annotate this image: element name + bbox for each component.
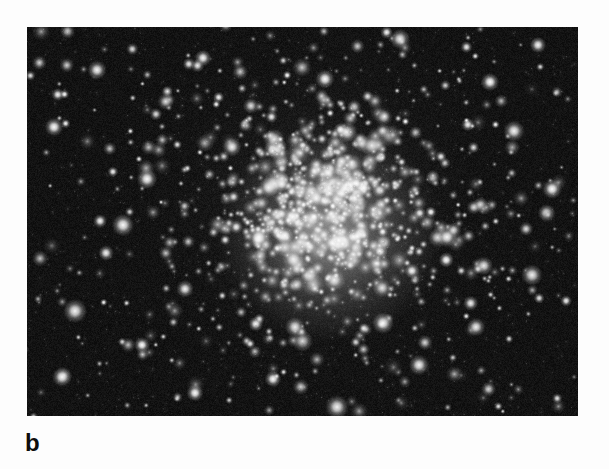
figure-panel: b xyxy=(0,0,609,469)
star-field-canvas xyxy=(27,27,578,416)
astronomical-photograph xyxy=(27,27,578,416)
panel-label: b xyxy=(25,429,40,457)
